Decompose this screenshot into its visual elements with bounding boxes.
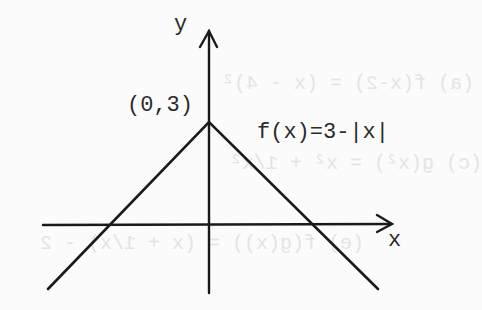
vertex-label: (0,3) [127, 93, 193, 118]
x-axis-label: x [388, 228, 401, 253]
function-label: f(x)=3-|x| [257, 120, 389, 145]
y-axis-label: y [174, 12, 187, 37]
x-axis [43, 215, 392, 232]
function-curve [48, 122, 378, 289]
y-axis [200, 31, 217, 293]
